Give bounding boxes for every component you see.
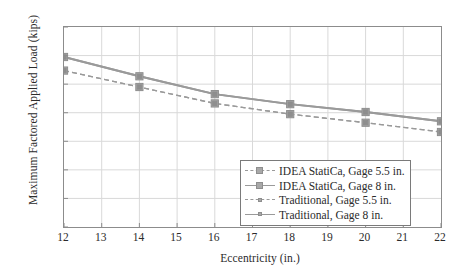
legend-label: Traditional, Gage 8 in. (279, 209, 383, 221)
legend-item: IDEA StatiCa, Gage 8 in. (245, 179, 405, 194)
x-tick-16: 16 (199, 231, 229, 243)
legend-item: IDEA StatiCa, Gage 5.5 in. (245, 164, 405, 179)
legend-label: IDEA StatiCa, Gage 5.5 in. (279, 165, 405, 177)
x-tick-20: 20 (350, 231, 380, 243)
chart-legend: IDEA StatiCa, Gage 5.5 in.IDEA StatiCa, … (240, 160, 411, 226)
x-tick-15: 15 (161, 231, 191, 243)
x-tick-21: 21 (387, 231, 417, 243)
x-tick-14: 14 (123, 231, 153, 243)
legend-swatch-icon (245, 194, 275, 206)
chart-figure: Maximum Factored Applied Load (kips) 040… (0, 0, 465, 277)
legend-item: Traditional, Gage 5.5 in. (245, 193, 405, 208)
legend-swatch-icon (245, 165, 275, 177)
x-axis-title: Eccentricity (in.) (60, 252, 460, 264)
x-tick-19: 19 (312, 231, 342, 243)
y-axis-title: Maximum Factored Applied Load (kips) (27, 5, 39, 215)
legend-label: Traditional, Gage 5.5 in. (279, 194, 392, 206)
legend-label: IDEA StatiCa, Gage 8 in. (279, 180, 396, 192)
x-tick-22: 22 (425, 231, 455, 243)
x-tick-12: 12 (48, 231, 78, 243)
legend-item: Traditional, Gage 8 in. (245, 208, 405, 223)
x-tick-13: 13 (86, 231, 116, 243)
x-tick-18: 18 (274, 231, 304, 243)
legend-swatch-icon (245, 209, 275, 221)
x-tick-17: 17 (237, 231, 267, 243)
legend-swatch-icon (245, 180, 275, 192)
